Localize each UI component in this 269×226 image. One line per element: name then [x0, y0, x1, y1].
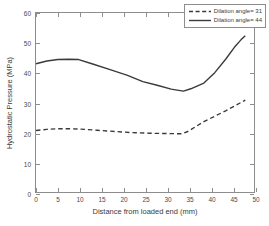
y-tick-mark-right — [250, 134, 254, 135]
y-tick-label: 40 — [24, 70, 31, 77]
x-tick-mark — [102, 188, 103, 192]
y-tick-mark — [36, 43, 40, 44]
legend: Dilation angle= 31 Dilation angle= 44 — [184, 4, 266, 28]
legend-label-dilation-44: Dilation angle= 44 — [214, 17, 262, 24]
legend-label-dilation-31: Dilation angle= 31 — [214, 8, 262, 15]
x-tick-label: 10 — [76, 196, 83, 203]
y-tick-label: 60 — [24, 10, 31, 17]
x-tick-mark — [168, 188, 169, 192]
x-tick-mark-top — [146, 13, 147, 17]
x-tick-mark — [58, 188, 59, 192]
series-line-dilation-angle-31 — [36, 100, 245, 134]
y-axis-title-text: Hydrostatic Pressure (MPa) — [5, 56, 14, 148]
x-tick-mark — [124, 188, 125, 192]
plot-area: 0102030405060 05101520253035404550 — [35, 12, 255, 193]
legend-swatch-solid — [188, 17, 212, 24]
x-tick-mark — [80, 188, 81, 192]
x-tick-mark-top — [36, 13, 37, 17]
y-tick-mark-right — [250, 43, 254, 44]
x-tick-mark-top — [168, 13, 169, 17]
y-tick-mark-right — [250, 194, 254, 195]
x-tick-label: 35 — [186, 196, 193, 203]
x-tick-mark — [36, 188, 37, 192]
y-tick-mark — [36, 104, 40, 105]
y-tick-mark — [36, 194, 40, 195]
x-tick-label: 15 — [98, 196, 105, 203]
y-tick-label: 10 — [24, 160, 31, 167]
x-tick-mark-top — [80, 13, 81, 17]
legend-item-dilation-44: Dilation angle= 44 — [188, 16, 262, 25]
x-tick-label: 0 — [34, 196, 38, 203]
legend-swatch-dashed — [188, 8, 212, 15]
chart-figure: Hydrostatic Pressure (MPa) 0102030405060… — [0, 0, 269, 226]
x-tick-label: 40 — [208, 196, 215, 203]
x-tick-label: 5 — [56, 196, 60, 203]
series-line-dilation-angle-44 — [36, 36, 245, 91]
x-tick-mark — [212, 188, 213, 192]
legend-item-dilation-31: Dilation angle= 31 — [188, 7, 262, 16]
x-axis-title: Distance from loaded end (mm) — [35, 207, 255, 216]
x-tick-mark — [190, 188, 191, 192]
y-tick-label: 0 — [27, 191, 31, 198]
x-tick-mark-top — [102, 13, 103, 17]
y-tick-label: 30 — [24, 100, 31, 107]
y-tick-label: 20 — [24, 130, 31, 137]
x-tick-label: 25 — [142, 196, 149, 203]
y-tick-mark — [36, 134, 40, 135]
y-axis-title: Hydrostatic Pressure (MPa) — [3, 12, 15, 193]
y-tick-mark — [36, 73, 40, 74]
x-tick-label: 45 — [230, 196, 237, 203]
y-tick-mark-right — [250, 104, 254, 105]
y-tick-label: 50 — [24, 40, 31, 47]
data-lines — [36, 13, 254, 192]
x-tick-mark-top — [58, 13, 59, 17]
y-tick-mark-right — [250, 73, 254, 74]
x-tick-mark — [234, 188, 235, 192]
y-tick-mark-right — [250, 164, 254, 165]
x-tick-label: 30 — [164, 196, 171, 203]
x-tick-label: 20 — [120, 196, 127, 203]
y-tick-mark — [36, 164, 40, 165]
x-tick-mark — [256, 188, 257, 192]
x-tick-mark — [146, 188, 147, 192]
x-tick-label: 50 — [252, 196, 259, 203]
x-tick-mark-top — [124, 13, 125, 17]
